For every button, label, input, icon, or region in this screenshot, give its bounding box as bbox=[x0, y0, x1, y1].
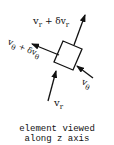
label-vtheta: vθ bbox=[78, 76, 92, 92]
label-vr: vr bbox=[53, 97, 64, 111]
label-vr-plus-dvr: vr + δvr bbox=[32, 15, 70, 29]
element-rectangle bbox=[54, 41, 82, 70]
label-vtheta-plus-dvtheta: vθ + δvθ bbox=[4, 36, 42, 61]
caption-line-2: along z axis bbox=[0, 134, 114, 144]
caption-line-1: element viewed bbox=[0, 124, 114, 134]
arrow-vr-plus bbox=[74, 15, 85, 45]
